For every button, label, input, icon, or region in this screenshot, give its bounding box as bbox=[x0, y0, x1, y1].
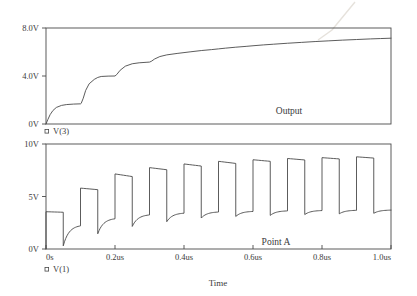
lower-trace-label: Point A bbox=[262, 237, 291, 247]
x-tick-label: 0.6us bbox=[244, 252, 262, 262]
x-tick-label: 0.4us bbox=[175, 252, 193, 262]
upper-plot-frame bbox=[46, 28, 391, 124]
square-marker bbox=[45, 268, 49, 272]
x-tick-label: 0.2us bbox=[106, 252, 124, 262]
lower-ytick-label-5: 5V bbox=[29, 192, 40, 202]
upper-trace-label: Output bbox=[276, 106, 303, 116]
waveform-canvas: 8.0V 4.0V 0V Output V(3) 10V 5V 0V Point… bbox=[0, 0, 417, 296]
lower-ytick-label-10: 10V bbox=[24, 139, 40, 149]
spice-plot-figure: 8.0V 4.0V 0V Output V(3) 10V 5V 0V Point… bbox=[0, 0, 417, 296]
x-axis-title: Time bbox=[209, 278, 228, 288]
upper-ytick-label-8: 8.0V bbox=[22, 23, 40, 33]
x-axis-ticks: 0s0.2us0.4us0.6us0.8us1.0us bbox=[46, 245, 391, 262]
scan-artifact bbox=[318, 2, 355, 40]
lower-waveform-trace bbox=[46, 157, 391, 249]
x-tick-label: 0s bbox=[46, 252, 54, 262]
upper-ytick-label-4: 4.0V bbox=[22, 71, 40, 81]
upper-legend[interactable]: V(3) bbox=[45, 126, 69, 136]
upper-plot: 8.0V 4.0V 0V Output bbox=[22, 23, 391, 129]
upper-waveform-trace bbox=[46, 38, 391, 124]
x-tick-label: 0.8us bbox=[313, 252, 331, 262]
lower-legend[interactable]: V(1) bbox=[45, 264, 69, 274]
lower-legend-label: V(1) bbox=[53, 264, 69, 274]
lower-plot: 10V 5V 0V Point A bbox=[24, 139, 391, 254]
x-tick-label: 1.0us bbox=[373, 252, 391, 262]
square-marker bbox=[45, 130, 49, 134]
upper-ytick-label-0: 0V bbox=[29, 119, 40, 129]
lower-ytick-label-0: 0V bbox=[29, 244, 40, 254]
upper-legend-label: V(3) bbox=[53, 126, 69, 136]
